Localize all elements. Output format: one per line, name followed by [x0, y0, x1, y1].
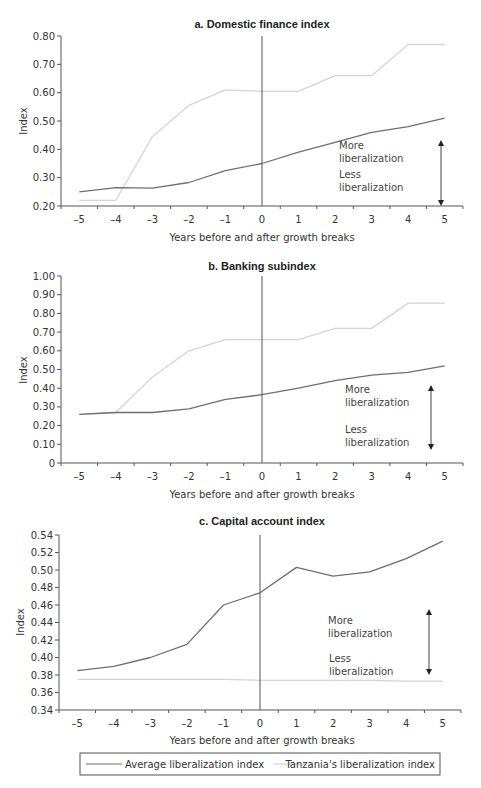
y-axis: 00.100.200.300.400.500.600.700.800.901.0…	[33, 271, 61, 469]
annotation-more-liberalization: More	[339, 140, 364, 151]
x-tick-label: –3	[145, 718, 156, 729]
liberalization-annotation: MoreliberalizationLessliberalization	[328, 612, 429, 677]
x-axis-label: Years before and after growth breaks	[168, 232, 354, 243]
y-axis-label: Index	[18, 356, 29, 384]
y-tick-label: 0.38	[31, 670, 53, 681]
y-axis-label: Index	[18, 107, 29, 135]
y-tick-label: 0.36	[31, 687, 53, 698]
chart-title: b. Banking subindex	[208, 260, 316, 272]
y-tick-label: 0.70	[33, 59, 55, 70]
y-tick-label: 0.30	[33, 172, 55, 183]
figure: a. Domestic finance index 0.200.300.400.…	[0, 0, 481, 788]
y-tick-label: 1.00	[33, 271, 55, 282]
x-tick-label: –1	[220, 214, 231, 225]
series-lines	[79, 276, 444, 463]
x-tick-label: –2	[183, 214, 194, 225]
y-tick-label: 0.10	[33, 439, 55, 450]
y-tick-label: 0.40	[33, 144, 55, 155]
x-tick-label: –3	[147, 471, 158, 482]
y-tick-label: 0.80	[33, 31, 55, 42]
x-tick-label: 2	[330, 718, 336, 729]
series-lines	[77, 535, 442, 710]
panel-banking-subindex: b. Banking subindex 00.100.200.300.400.5…	[18, 260, 463, 500]
annotation-more-liberalization: More	[345, 384, 370, 395]
annotation-less-liberalization: Less	[345, 424, 367, 435]
liberalization-annotation: MoreliberalizationLessliberalization	[345, 384, 431, 448]
annotation-less-liberalization: liberalization	[339, 182, 403, 193]
x-tick-label: –4	[108, 718, 119, 729]
x-tick-label: 3	[366, 718, 372, 729]
y-tick-label: 0.40	[31, 652, 53, 663]
x-tick-label: –2	[181, 718, 192, 729]
y-tick-label: 0.20	[33, 201, 55, 212]
series-lines	[79, 36, 444, 206]
x-tick-label: –4	[110, 214, 121, 225]
y-axis: 0.340.360.380.400.420.440.460.480.500.52…	[31, 530, 59, 716]
x-tick-label: –5	[74, 471, 85, 482]
liberalization-annotation: MoreliberalizationLessliberalization	[339, 140, 441, 203]
y-tick-label: 0.60	[33, 87, 55, 98]
y-tick-label: 0.80	[33, 308, 55, 319]
x-tick-label: 3	[368, 471, 374, 482]
x-tick-label: 4	[405, 214, 411, 225]
legend-label-tanzania: Tanzania's liberalization index	[284, 759, 435, 770]
y-tick-label: 0.20	[33, 420, 55, 431]
y-axis-label: Index	[15, 608, 26, 636]
legend: Average liberalization index Tanzania's …	[80, 753, 440, 775]
y-tick-label: 0.52	[31, 547, 53, 558]
x-tick-label: –3	[147, 214, 158, 225]
x-tick-label: –2	[183, 471, 194, 482]
x-tick-label: 0	[259, 214, 265, 225]
annotation-less-liberalization: liberalization	[345, 437, 409, 448]
annotation-less-liberalization: Less	[339, 169, 361, 180]
x-axis: –5–4–3–2–1012345	[61, 206, 463, 225]
y-tick-label: 0.44	[31, 617, 53, 628]
y-tick-label: 0.42	[31, 635, 53, 646]
x-tick-label: –5	[74, 214, 85, 225]
y-tick-label: 0.30	[33, 401, 55, 412]
y-tick-label: 0.50	[33, 364, 55, 375]
chart-title: c. Capital account index	[199, 515, 326, 527]
panel-domestic-finance-index: a. Domestic finance index 0.200.300.400.…	[18, 18, 463, 243]
x-tick-label: –4	[110, 471, 121, 482]
x-tick-label: 5	[442, 471, 448, 482]
annotation-more-liberalization: liberalization	[328, 628, 392, 639]
annotation-more-liberalization: More	[328, 615, 353, 626]
x-tick-label: 3	[368, 214, 374, 225]
annotation-more-liberalization: liberalization	[345, 397, 409, 408]
x-tick-label: 4	[405, 471, 411, 482]
panel-capital-account-index: c. Capital account index 0.340.360.380.4…	[15, 515, 461, 746]
y-tick-label: 0.90	[33, 289, 55, 300]
chart-title: a. Domestic finance index	[194, 18, 330, 30]
x-axis-label: Years before and after growth breaks	[168, 489, 354, 500]
annotation-more-liberalization: liberalization	[339, 153, 403, 164]
x-tick-label: –1	[218, 718, 229, 729]
y-tick-label: 0.46	[31, 600, 53, 611]
x-tick-label: 0	[259, 471, 265, 482]
x-tick-label: 1	[293, 718, 299, 729]
x-tick-label: 1	[295, 471, 301, 482]
x-tick-label: 2	[332, 214, 338, 225]
y-axis: 0.200.300.400.500.600.700.80	[33, 31, 61, 212]
y-tick-label: 0.40	[33, 383, 55, 394]
y-tick-label: 0.50	[33, 116, 55, 127]
legend-label-average: Average liberalization index	[125, 759, 264, 770]
x-tick-label: 2	[332, 471, 338, 482]
y-tick-label: 0.60	[33, 345, 55, 356]
x-tick-label: 4	[403, 718, 409, 729]
x-tick-label: 5	[442, 214, 448, 225]
x-tick-label: 1	[295, 214, 301, 225]
y-tick-label: 0.48	[31, 582, 53, 593]
x-axis-label: Years before and after growth breaks	[168, 735, 354, 746]
y-tick-label: 0.50	[31, 565, 53, 576]
x-tick-label: 0	[257, 718, 263, 729]
y-tick-label: 0.54	[31, 530, 53, 541]
x-axis: –5–4–3–2–1012345	[59, 710, 461, 729]
x-axis: –5–4–3–2–1012345	[61, 463, 463, 482]
x-tick-label: –1	[220, 471, 231, 482]
x-tick-label: –5	[72, 718, 83, 729]
y-tick-label: 0	[49, 458, 55, 469]
y-tick-label: 0.34	[31, 705, 53, 716]
annotation-less-liberalization: Less	[329, 653, 351, 664]
y-tick-label: 0.70	[33, 327, 55, 338]
